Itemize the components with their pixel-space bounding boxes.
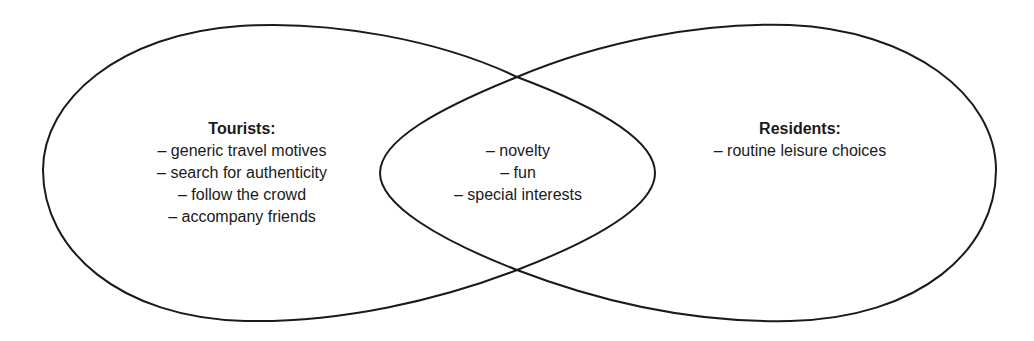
overlap-item: – novelty: [420, 140, 616, 162]
tourists-item: – accompany friends: [130, 206, 354, 228]
residents-item: – routine leisure choices: [680, 140, 920, 162]
overlap-item: – fun: [420, 162, 616, 184]
overlap-section: – novelty – fun – special interests: [420, 140, 616, 206]
overlap-item: – special interests: [420, 184, 616, 206]
tourists-section: Tourists: – generic travel motives – sea…: [130, 118, 354, 228]
residents-section: Residents: – routine leisure choices: [680, 118, 920, 162]
tourists-item: – search for authenticity: [130, 162, 354, 184]
residents-heading: Residents:: [680, 118, 920, 140]
tourists-heading: Tourists:: [130, 118, 354, 140]
tourists-item: – follow the crowd: [130, 184, 354, 206]
tourists-item: – generic travel motives: [130, 140, 354, 162]
